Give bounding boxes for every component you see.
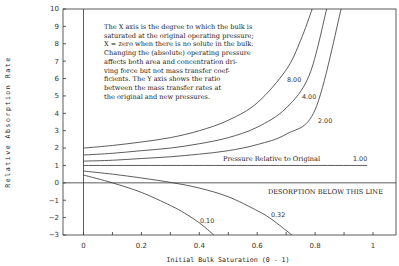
y-tick-label: −1 <box>49 197 59 205</box>
y-tick-label: 9 <box>55 23 59 31</box>
note-line: X = zero when there is no solute in the … <box>104 40 253 48</box>
y-tick-label: 1 <box>55 162 59 170</box>
note-line: ving force but not mass transfer coef- <box>103 67 230 75</box>
x-tick-label: 0.6 <box>252 242 264 250</box>
y-tick-label: 7 <box>55 58 59 66</box>
x-axis-title: Initial Bulk Saturation (0 - 1) <box>166 256 289 264</box>
x-tick-label: 0 <box>81 242 85 250</box>
x-tick-label: 0.2 <box>136 242 147 250</box>
y-tick-label: 8 <box>55 40 59 48</box>
curve-0.32 <box>84 171 292 235</box>
y-tick-label: 2 <box>55 144 59 152</box>
note-line: the original and new pressures. <box>104 93 210 101</box>
note-line: between the mass transfer rates at <box>104 84 222 92</box>
desorption-label: DESORPTION BELOW THIS LINE <box>268 188 383 196</box>
note-line: affects both area and concentration dri- <box>104 58 237 66</box>
note-line: saturated at the original operating pres… <box>104 32 254 40</box>
chart: 109876543210−1−2−3 00.20.40.60.81 8.004.… <box>0 0 399 266</box>
label-4: 4.00 <box>302 93 316 101</box>
label-010: 0.10 <box>200 217 214 225</box>
note-line: Changing the (absolute) operating pressu… <box>104 49 251 57</box>
x-tick-label: 0.4 <box>194 242 206 250</box>
note-line: The X axis is the degree to which the bu… <box>104 23 253 31</box>
label-1: 1.00 <box>353 155 367 163</box>
y-tick-label: −3 <box>49 231 59 239</box>
label-8: 8.00 <box>287 76 301 84</box>
x-tick-label: 0.8 <box>310 242 321 250</box>
y-tick-label: −2 <box>49 214 59 222</box>
y-tick-label: 4 <box>55 110 60 118</box>
label-032: 0.32 <box>271 211 285 219</box>
annotation-text: The X axis is the degree to which the bu… <box>103 23 254 101</box>
x-tick-label: 1 <box>371 242 375 250</box>
label-2: 2.00 <box>318 117 332 125</box>
y-tick-label: 0 <box>55 179 59 187</box>
y-tick-label: 3 <box>55 127 59 135</box>
y-axis: 109876543210−1−2−3 <box>49 5 66 239</box>
y-tick-label: 10 <box>50 5 59 13</box>
curve-0.10 <box>84 175 214 235</box>
note-line: ficients. The Y axis shows the ratio <box>104 75 220 83</box>
pressure-label: Pressure Relative to Original <box>223 155 320 163</box>
y-tick-label: 6 <box>55 75 60 83</box>
y-tick-label: 5 <box>55 92 59 100</box>
y-axis-title: Relative Absorption Rate <box>4 56 12 187</box>
